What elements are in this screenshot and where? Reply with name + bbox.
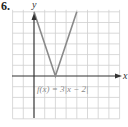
x-axis-label: x xyxy=(122,70,128,81)
grid xyxy=(13,10,120,119)
equation-label: f(x) = 3|x − 2| xyxy=(37,84,89,94)
x-axis-arrow-icon xyxy=(115,74,122,79)
function-graph: x y f(x) = 3|x − 2| xyxy=(0,0,128,127)
y-axis-label: y xyxy=(31,0,37,10)
